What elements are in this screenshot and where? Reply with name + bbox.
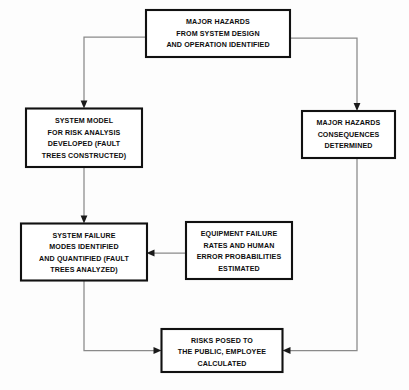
node-major-hazards-identified[interactable]: MAJOR HAZARDS FROM SYSTEM DESIGN AND OPE… [146, 10, 290, 57]
node-label-line: CALCULATED [197, 360, 246, 368]
node-risks-posed[interactable]: RISKS POSED TO THE PUBLIC, EMPLOYEE CALC… [162, 329, 283, 372]
edge-consequences-to-risks [283, 158, 358, 354]
node-label-line: AND QUANTIFIED (FAULT [39, 255, 129, 263]
node-label-line: MAJOR HAZARDS [317, 119, 381, 127]
edge-hazards-to-system-model [81, 37, 146, 109]
edge-equipment-to-failure-modes [147, 250, 187, 257]
node-label-line: RISKS POSED TO [191, 337, 253, 345]
node-label-line: DETERMINED [324, 142, 372, 150]
node-label-line: TREES ANALYZED) [50, 266, 118, 274]
node-label-line: MODES IDENTIFIED [49, 243, 118, 251]
node-equipment-failure-rates[interactable]: EQUIPMENT FAILURE RATES AND HUMAN ERROR … [186, 222, 292, 279]
node-label-line: SYSTEM MODEL [55, 117, 114, 125]
node-label-line: FOR RISK ANALYSIS [48, 129, 121, 137]
edge-failure-modes-to-risks [84, 280, 162, 354]
node-system-model[interactable]: SYSTEM MODEL FOR RISK ANALYSIS DEVELOPED… [26, 109, 142, 168]
node-label-line: SYSTEM FAILURE [52, 232, 115, 240]
node-label-line: THE PUBLIC, EMPLOYEE [178, 348, 266, 356]
node-major-hazards-consequences[interactable]: MAJOR HAZARDS CONSEQUENCES DETERMINED [302, 111, 395, 158]
node-label-line: ERROR PROBABILITIES [197, 253, 282, 261]
node-label-line: RATES AND HUMAN [204, 242, 275, 250]
node-label-line: EQUIPMENT FAILURE [201, 230, 278, 238]
node-label-line: CONSEQUENCES [318, 131, 380, 139]
node-label-line: ESTIMATED [218, 265, 260, 273]
flowchart-diagram: MAJOR HAZARDS FROM SYSTEM DESIGN AND OPE… [0, 0, 409, 390]
node-label-line: MAJOR HAZARDS [186, 18, 250, 26]
node-label-line: DEVELOPED (FAULT [48, 140, 121, 148]
node-system-failure-modes[interactable]: SYSTEM FAILURE MODES IDENTIFIED AND QUAN… [21, 224, 147, 281]
edge-hazards-to-consequences [290, 38, 360, 111]
node-label-line: TREES CONSTRUCTED) [42, 152, 127, 160]
edge-system-model-to-failure-modes [81, 167, 88, 224]
node-label-line: AND OPERATION IDENTIFIED [166, 41, 269, 49]
node-label-line: FROM SYSTEM DESIGN [176, 30, 259, 38]
